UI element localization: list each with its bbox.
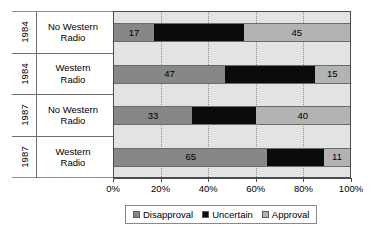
x-tick	[351, 178, 352, 182]
year-label-cell: 1984	[12, 54, 37, 95]
x-tick	[161, 178, 162, 182]
x-tick	[256, 178, 257, 182]
segment-value: 17	[114, 28, 154, 38]
x-tick-label: 80%	[283, 183, 323, 194]
bar-segment-approval[interactable]: 11	[324, 148, 350, 167]
bar-segment-disapproval[interactable]: 33	[114, 106, 192, 125]
segment-value: 40	[256, 111, 350, 121]
plot-inner: 17 45 47 15	[114, 12, 350, 177]
legend-label: Uncertain	[212, 209, 253, 220]
bar-row: 17 45	[114, 23, 350, 42]
legend-label: Disapproval	[143, 209, 193, 220]
year-label-cell: 1984	[12, 12, 37, 53]
bar-segment-disapproval[interactable]: 47	[114, 65, 225, 84]
x-tick-label: 0%	[93, 183, 133, 194]
segment-value: 15	[315, 69, 350, 79]
year-label-cell: 1987	[12, 95, 37, 136]
bar-segment-disapproval[interactable]: 65	[114, 148, 267, 167]
x-tick-label: 20%	[141, 183, 181, 194]
category-row: 1987 No Western Radio	[12, 95, 113, 137]
x-tick	[113, 178, 114, 182]
plot-area: 17 45 47 15	[113, 11, 351, 178]
x-tick-label: 60%	[236, 183, 276, 194]
year-label: 1984	[19, 63, 30, 85]
bar-segment-uncertain[interactable]	[192, 106, 256, 125]
group-label: Western Radio	[37, 146, 113, 169]
category-axis: 1984 No Western Radio 1984 Western Radio…	[12, 11, 113, 178]
category-row: 1987 Western Radio	[12, 137, 113, 179]
bar-segment-approval[interactable]: 40	[256, 106, 350, 125]
segment-value: 11	[324, 152, 350, 162]
bar-segment-approval[interactable]: 15	[315, 65, 350, 84]
bar-segment-uncertain[interactable]	[267, 148, 324, 167]
legend-item-disapproval[interactable]: Disapproval	[133, 209, 193, 220]
legend-swatch-icon	[202, 211, 209, 218]
legend-label: Approval	[272, 209, 310, 220]
year-label: 1987	[19, 146, 30, 168]
segment-value: 47	[114, 69, 225, 79]
bar-segment-approval[interactable]: 45	[244, 23, 350, 42]
legend-item-uncertain[interactable]: Uncertain	[202, 209, 253, 220]
bar-row: 47 15	[114, 65, 350, 84]
bar-segment-disapproval[interactable]: 17	[114, 23, 154, 42]
stacked-bar-chart: 1984 No Western Radio 1984 Western Radio…	[0, 0, 379, 240]
legend-swatch-icon	[262, 211, 269, 218]
group-label: No Western Radio	[37, 21, 113, 44]
x-tick-label: 40%	[188, 183, 228, 194]
segment-value: 45	[244, 28, 350, 38]
category-row: 1984 Western Radio	[12, 54, 113, 96]
group-label: Western Radio	[37, 62, 113, 85]
x-axis-line	[113, 178, 351, 179]
legend-swatch-icon	[133, 211, 140, 218]
category-row: 1984 No Western Radio	[12, 12, 113, 54]
legend-item-approval[interactable]: Approval	[262, 209, 310, 220]
x-tick	[303, 178, 304, 182]
chart-legend: Disapproval Uncertain Approval	[125, 205, 317, 224]
bar-segment-uncertain[interactable]	[225, 65, 315, 84]
segment-value: 65	[114, 152, 267, 162]
group-label: No Western Radio	[37, 104, 113, 127]
x-tick	[208, 178, 209, 182]
x-tick-label: 100%	[331, 183, 371, 194]
year-label: 1987	[19, 104, 30, 126]
bar-row: 33 40	[114, 106, 350, 125]
year-label: 1984	[19, 21, 30, 43]
segment-value: 33	[114, 111, 192, 121]
year-label-cell: 1987	[12, 137, 37, 179]
bar-segment-uncertain[interactable]	[154, 23, 244, 42]
bar-row: 65 11	[114, 148, 350, 167]
